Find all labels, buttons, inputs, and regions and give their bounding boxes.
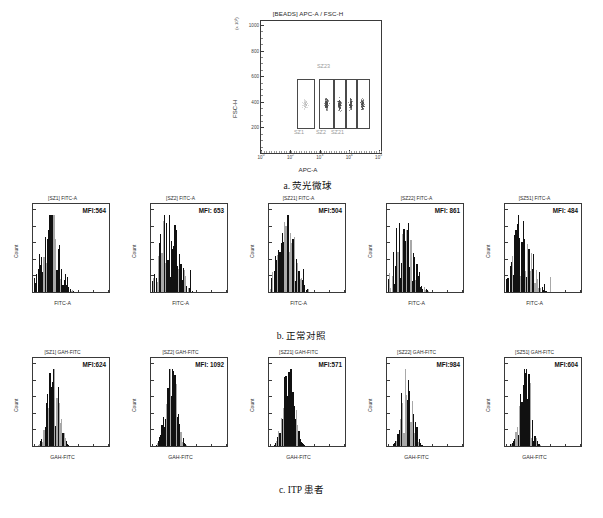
scatter-x-minor-tick — [314, 151, 315, 153]
histogram-plot-area: MFI:571100101102103104105 — [268, 357, 346, 447]
scatter-y-minor-tick — [261, 108, 263, 109]
scatter-x-minor-tick — [344, 151, 345, 153]
scatter-y-tickmark — [261, 25, 264, 26]
histogram-mfi-label: MFI:564 — [83, 207, 106, 214]
histogram-x-axis-label: FITC-A — [128, 300, 233, 306]
histogram-bar — [540, 445, 541, 446]
scatter-x-minor-tick — [284, 151, 285, 153]
scatter-x-minor-tick — [311, 151, 312, 153]
scatter-x-minor-tick — [349, 151, 350, 153]
histogram-bar — [192, 291, 193, 292]
histogram-y-tickmark — [151, 380, 154, 381]
histogram-y-tickmark — [151, 363, 154, 364]
histogram-title: [SZ2] GAH-FITC — [128, 350, 233, 355]
histogram-y-tickmark — [269, 396, 272, 397]
scatter-x-tick: 103 — [316, 155, 323, 160]
histogram-title: [SZ22] GAH-FITC — [364, 350, 469, 355]
histogram-bar — [73, 291, 74, 292]
scatter-y-tick: 1000 — [249, 22, 259, 27]
histogram-title: [SZ51] FITC-A — [482, 196, 587, 201]
histogram-title: [SZ1] FITC-A — [10, 196, 115, 201]
histogram-title: [SZ22] FITC-A — [364, 196, 469, 201]
caption-c: c. ITP 患者 — [0, 482, 603, 496]
histogram-mfi-label: MFI: 653 — [199, 207, 224, 214]
histogram-y-tickmark — [151, 413, 154, 414]
histogram-x-axis-label: GAH-FITC — [128, 454, 233, 460]
scatter-panel: [BEADS] APC-A / FSC-H (x 10³) FSC-H 2004… — [228, 10, 388, 190]
histogram-y-tickmark — [387, 380, 390, 381]
scatter-gate-label-sz21: SZ21 — [331, 129, 344, 135]
histogram-y-tickmark — [505, 363, 508, 364]
scatter-x-minor-tick — [274, 151, 275, 153]
histogram-y-tickmark — [33, 396, 36, 397]
scatter-x-minor-tick — [309, 151, 310, 153]
scatter-x-minor-tick — [359, 151, 360, 153]
scatter-y-tick: 600 — [251, 74, 259, 79]
scatter-y-minor-tick — [261, 147, 263, 148]
histogram-y-tickmark — [505, 396, 508, 397]
histogram-y-tickmark — [387, 259, 390, 260]
histogram-panel: [SZ1] FITC-ACountMFI:5641001011021031041… — [10, 196, 115, 316]
histogram-x-axis-label: FITC-A — [482, 300, 587, 306]
scatter-x-minor-tick — [371, 151, 372, 153]
histogram-y-tickmark — [505, 380, 508, 381]
scatter-x-axis-label: APC-A — [228, 166, 388, 173]
histogram-y-tickmark — [387, 396, 390, 397]
scatter-x-minor-tick — [364, 151, 365, 153]
scatter-x-minor-tick — [336, 151, 337, 153]
scatter-gate-label-sz2: SZ2 — [316, 129, 326, 135]
histogram-mfi-label: MFI:624 — [83, 361, 106, 368]
histogram-title: [SZ21] FITC-A — [246, 196, 351, 201]
scatter-x-minor-tick — [269, 151, 270, 153]
scatter-x-minor-tick — [369, 151, 370, 153]
histogram-y-tickmark — [269, 242, 272, 243]
histogram-row-normal-control: [SZ1] FITC-ACountMFI:5641001011021031041… — [0, 196, 603, 326]
scatter-x-tick: 100 — [258, 155, 265, 160]
histogram-y-tickmark — [151, 226, 154, 227]
histogram-y-tickmark — [387, 413, 390, 414]
histogram-y-tickmark — [33, 413, 36, 414]
scatter-x-minor-tick — [361, 151, 362, 153]
histogram-plot-area: MFI: 1092100101102103104105 — [150, 357, 228, 447]
scatter-x-minor-tick — [354, 151, 355, 153]
histogram-bar — [190, 270, 191, 292]
scatter-x-minor-tick — [306, 151, 307, 153]
scatter-cluster-sz2 — [319, 79, 333, 127]
histogram-y-tickmark — [505, 259, 508, 260]
histogram-y-axis-label: Count — [485, 399, 491, 412]
scatter-x-minor-tick — [351, 151, 352, 153]
histogram-y-tickmark — [33, 259, 36, 260]
scatter-y-tickmark — [261, 76, 264, 77]
scatter-x-minor-tick — [296, 151, 297, 153]
histogram-x-axis-label: GAH-FITC — [10, 454, 115, 460]
histogram-panel: [SZ2] GAH-FITCCountMFI: 1092100101102103… — [128, 350, 233, 470]
histogram-panel: [SZ21] GAH-FITCCountMFI:5711001011021031… — [246, 350, 351, 470]
histogram-y-tickmark — [387, 226, 390, 227]
histogram-bar — [530, 383, 531, 446]
scatter-x-minor-tick — [346, 151, 347, 153]
scatter-x-minor-tick — [341, 151, 342, 153]
histogram-mfi-label: MFI: 1092 — [195, 361, 224, 368]
histogram-plot-area: MFI:564100101102103104105 — [32, 203, 110, 293]
scatter-x-minor-tick — [271, 151, 272, 153]
scatter-x-minor-tick — [301, 151, 302, 153]
scatter-plot-area: 2004006008001000100102103104105SZ23SZ1SZ… — [260, 20, 382, 154]
histogram-plot-area: MFI: 653100101102103104105 — [150, 203, 228, 293]
histogram-bar — [428, 291, 429, 292]
histogram-x-axis-label: FITC-A — [246, 300, 351, 306]
histogram-mfi-label: MFI: 861 — [435, 207, 460, 214]
scatter-x-minor-tick — [289, 151, 290, 153]
histogram-plot-area: MFI:624100101102103104105 — [32, 357, 110, 447]
scatter-y-multiplier: (x 10³) — [234, 17, 239, 30]
histogram-panel: [SZ1] GAH-FITCCountMFI:62410010110210310… — [10, 350, 115, 470]
scatter-x-minor-tick — [381, 151, 382, 153]
scatter-x-minor-tick — [329, 151, 330, 153]
histogram-y-axis-label: Count — [131, 245, 137, 258]
scatter-x-minor-tick — [286, 151, 287, 153]
histogram-row-itp-patient: [SZ1] GAH-FITCCountMFI:62410010110210310… — [0, 350, 603, 480]
scatter-x-tick: 105 — [375, 155, 382, 160]
histogram-plot-area: MFI: 484100101102103104105 — [504, 203, 582, 293]
histogram-y-tickmark — [33, 209, 36, 210]
histogram-y-axis-label: Count — [485, 245, 491, 258]
scatter-y-minor-tick — [261, 140, 263, 141]
